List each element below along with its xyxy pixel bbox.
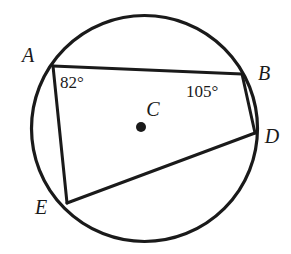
vertex-label-b: B (258, 62, 270, 84)
angle-label-at-a: 82° (60, 73, 84, 92)
circle-geometry-diagram: C A B D E 82° 105° (0, 0, 291, 254)
center-point-dot (136, 122, 146, 132)
vertex-label-a: A (20, 44, 35, 66)
angle-label-at-b: 105° (186, 82, 218, 101)
geometry-canvas: C A B D E 82° 105° (0, 0, 291, 254)
center-label-c: C (146, 98, 160, 120)
segment-DE (67, 133, 255, 203)
vertex-label-d: D (264, 125, 280, 147)
vertex-label-e: E (34, 196, 47, 218)
